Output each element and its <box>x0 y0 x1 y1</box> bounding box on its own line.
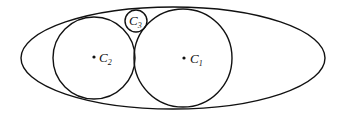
label-c3: C3 <box>129 13 142 30</box>
center-dot-c2 <box>92 55 95 58</box>
label-c2: C2 <box>99 50 112 67</box>
center-dot-c1 <box>182 56 185 59</box>
outer-ellipse <box>21 7 325 109</box>
label-c1: C1 <box>190 51 203 68</box>
ellipse-circles-diagram: C1 C2 C3 <box>0 0 340 119</box>
diagram-canvas: C1 C2 C3 <box>0 0 340 119</box>
